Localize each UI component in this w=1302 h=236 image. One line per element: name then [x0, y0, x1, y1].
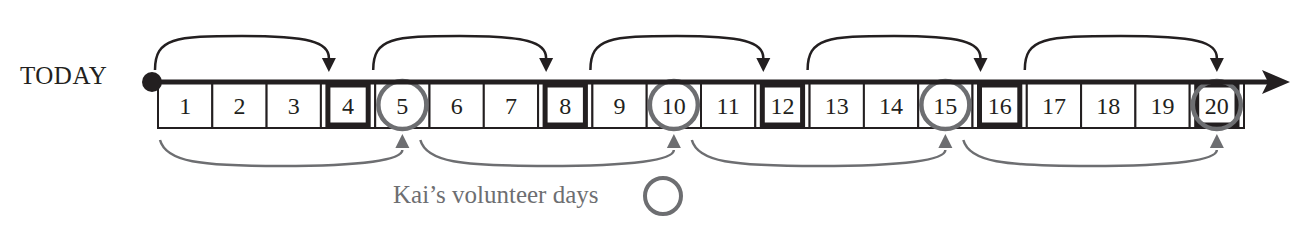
day-number: 2 — [233, 93, 245, 119]
day-number: 14 — [879, 93, 903, 119]
day-number: 19 — [1151, 93, 1175, 119]
bottom-arc-arrowhead-icon — [395, 134, 409, 148]
legend-label: Kai’s volunteer days — [393, 181, 599, 209]
day-number: 4 — [342, 93, 354, 119]
top-arc-16-to-20 — [1025, 36, 1217, 70]
day-number: 1 — [179, 93, 191, 119]
day-number: 15 — [933, 93, 957, 119]
top-arc-arrowhead-icon — [322, 58, 336, 72]
top-arc-arrowhead-icon — [539, 58, 553, 72]
day-number: 11 — [717, 93, 740, 119]
bottom-arc-arrowhead-icon — [1210, 134, 1224, 148]
day-number: 9 — [614, 93, 626, 119]
bottom-arc-5-to-10 — [420, 140, 673, 166]
day-number: 17 — [1042, 93, 1066, 119]
bottom-arc-0-to-5 — [160, 140, 402, 166]
day-number: 13 — [825, 93, 849, 119]
top-arc-4-to-8 — [373, 36, 546, 70]
today-dot — [142, 72, 162, 92]
top-arc-8-to-12 — [590, 36, 763, 70]
day-number: 7 — [505, 93, 517, 119]
top-arc-12-to-16 — [808, 36, 981, 70]
bottom-arc-15-to-20 — [963, 140, 1217, 166]
bottom-arc-10-to-15 — [692, 140, 946, 166]
top-arc-arrowhead-icon — [756, 58, 770, 72]
top-arc-0-to-4 — [155, 36, 329, 70]
top-arc-arrowhead-icon — [974, 58, 988, 72]
bottom-arc-arrowhead-icon — [667, 134, 681, 148]
day-number: 3 — [288, 93, 300, 119]
day-number: 8 — [559, 93, 571, 119]
day-number: 20 — [1205, 93, 1229, 119]
legend-circle-icon — [645, 178, 681, 214]
day-number: 5 — [396, 93, 408, 119]
top-arc-arrowhead-icon — [1210, 58, 1224, 72]
day-number: 6 — [451, 93, 463, 119]
day-number: 16 — [988, 93, 1012, 119]
bottom-arc-arrowhead-icon — [938, 134, 952, 148]
day-number: 18 — [1096, 93, 1120, 119]
timeline-diagram: 1234567891011121314151617181920 — [0, 0, 1302, 236]
day-number: 12 — [770, 93, 794, 119]
day-number: 10 — [662, 93, 686, 119]
